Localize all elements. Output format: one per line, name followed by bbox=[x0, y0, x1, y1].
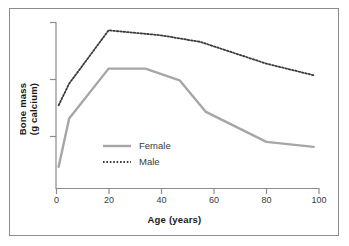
series-line-male bbox=[59, 30, 314, 105]
y-axis-title-line1: Bone mass bbox=[17, 39, 28, 179]
chart-figure: 0 20 40 60 80 100 Age (years) Bone mass … bbox=[0, 0, 349, 246]
chart-plot-area bbox=[0, 0, 349, 246]
x-axis-title: Age (years) bbox=[0, 214, 349, 225]
series-line-female bbox=[59, 69, 314, 167]
x-tick-label-80: 80 bbox=[252, 195, 282, 205]
legend-label-male: Male bbox=[139, 156, 160, 167]
x-tick-label-40: 40 bbox=[147, 195, 177, 205]
x-tick-label-0: 0 bbox=[42, 195, 72, 205]
x-tick-label-100: 100 bbox=[304, 195, 334, 205]
x-tick-label-20: 20 bbox=[94, 195, 124, 205]
x-tick-label-60: 60 bbox=[199, 195, 229, 205]
y-axis-title-line2: (g calcium) bbox=[28, 39, 39, 179]
legend-label-female: Female bbox=[139, 140, 171, 151]
y-axis-title: Bone mass (g calcium) bbox=[17, 39, 39, 179]
